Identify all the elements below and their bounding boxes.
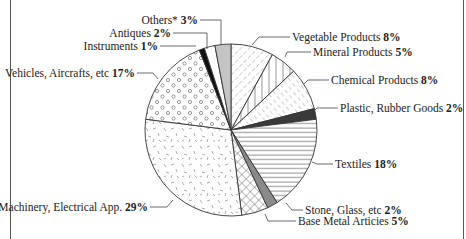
- label-antiques: Antiques 2%: [109, 27, 171, 40]
- pie-slice-pattern: [145, 119, 242, 216]
- label-machinery: Machinery, Electrical App. 29%: [0, 201, 148, 214]
- label-vehicles: Vehicles, Aircrafts, etc 17%: [5, 67, 135, 80]
- pie-chart: Others* 3% Antiques 2% Instruments 1% Ve…: [0, 0, 466, 239]
- label-textiles: Textiles 18%: [335, 158, 397, 170]
- label-instruments: Instruments 1%: [84, 40, 158, 52]
- label-mineral: Mineral Products 5%: [313, 46, 413, 58]
- label-plastic: Plastic, Rubber Goods 2%: [340, 102, 463, 115]
- pie-slices: [145, 44, 317, 216]
- label-base-metal: Base Metal Articies 5%: [298, 215, 409, 227]
- label-others: Others* 3%: [141, 14, 198, 26]
- label-vegetable: Vegetable Products 8%: [292, 31, 401, 44]
- label-chemical: Chemical Products 8%: [331, 74, 438, 86]
